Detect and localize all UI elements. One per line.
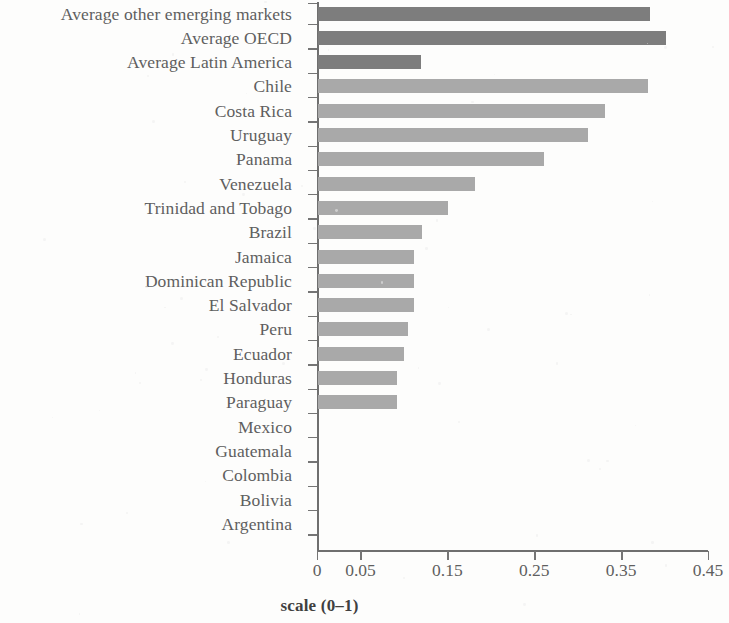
y-axis-tick <box>308 243 317 244</box>
speckle <box>180 297 183 300</box>
bar <box>318 128 588 142</box>
x-axis-tick-label: 0.05 <box>345 562 376 580</box>
category-label: Average OECD <box>181 30 292 48</box>
bar <box>318 274 414 288</box>
category-label: Honduras <box>223 370 292 388</box>
y-axis-tick <box>308 194 317 195</box>
y-axis-tick <box>308 413 317 414</box>
speckle <box>152 120 155 123</box>
speckle <box>205 481 206 482</box>
category-label: Argentina <box>221 516 292 534</box>
x-axis-tick-label: 0 <box>313 562 322 580</box>
category-label: Venezuela <box>219 176 292 194</box>
category-label: Peru <box>260 321 292 339</box>
y-axis-tick <box>308 510 317 511</box>
y-axis-tick <box>308 389 317 390</box>
bar <box>318 201 448 215</box>
x-axis-line <box>317 550 708 552</box>
y-axis-tick <box>308 364 317 365</box>
x-axis-title: scale (0–1) <box>0 596 729 616</box>
x-axis-tick <box>534 551 535 560</box>
bar <box>318 79 648 93</box>
y-axis-tick <box>308 534 317 535</box>
speckle <box>227 541 230 544</box>
speckle <box>665 564 667 566</box>
speckle <box>418 367 420 369</box>
x-axis-tick-label: 0.15 <box>432 562 463 580</box>
speckle <box>403 577 405 579</box>
category-label: Average Latin America <box>127 54 292 72</box>
speckle <box>205 368 208 371</box>
bar <box>318 177 475 191</box>
x-axis-tick <box>708 551 709 560</box>
category-label: Paraguay <box>226 394 292 412</box>
speckle <box>556 362 558 364</box>
bar <box>318 104 605 118</box>
bar <box>318 250 414 264</box>
speckle <box>313 227 316 230</box>
speckle <box>536 534 539 537</box>
y-axis-tick <box>308 486 317 487</box>
bar <box>318 225 422 239</box>
x-axis-tick-label: 0.45 <box>693 562 724 580</box>
speckle <box>381 281 383 283</box>
speckle <box>200 379 202 381</box>
speckle <box>278 185 280 187</box>
y-axis-tick <box>308 97 317 98</box>
y-axis-tick <box>308 218 317 219</box>
speckle <box>565 312 568 315</box>
speckle <box>264 1 267 4</box>
category-label: Dominican Republic <box>145 273 292 291</box>
bar <box>318 298 414 312</box>
y-axis-tick <box>308 340 317 341</box>
y-axis-tick <box>308 3 317 4</box>
x-axis-tick <box>447 551 448 560</box>
x-axis-tick-label: 0.35 <box>606 562 637 580</box>
speckle <box>99 410 100 411</box>
speckle <box>301 185 303 187</box>
speckle <box>425 247 428 250</box>
bar <box>318 7 650 21</box>
speckle <box>126 512 128 514</box>
y-axis-tick <box>308 316 317 317</box>
category-label: Average other emerging markets <box>61 6 292 24</box>
category-label: Guatemala <box>215 443 292 461</box>
category-label: Uruguay <box>230 127 292 145</box>
category-label: El Salvador <box>209 297 292 315</box>
speckle <box>458 421 460 423</box>
bar-chart: Average other emerging marketsAverage OE… <box>0 0 729 623</box>
speckle <box>471 101 473 103</box>
y-axis-tick <box>308 121 317 122</box>
category-label: Ecuador <box>233 346 292 364</box>
y-axis-tick <box>308 267 317 268</box>
x-axis-tick-label: 0.25 <box>519 562 550 580</box>
speckle <box>242 193 245 196</box>
category-label: Trinidad and Tobago <box>145 200 292 218</box>
speckle <box>587 459 590 462</box>
speckle <box>80 523 83 526</box>
y-axis-tick <box>308 291 317 292</box>
bar <box>318 371 397 385</box>
speckle <box>135 372 137 374</box>
speckle <box>599 468 601 470</box>
speckle <box>106 17 109 20</box>
bar <box>318 31 666 45</box>
speckle <box>436 219 439 222</box>
speckle <box>145 286 147 288</box>
speckle <box>139 382 141 384</box>
y-axis-tick <box>308 48 317 49</box>
speckle <box>651 541 654 544</box>
speckle <box>171 342 174 345</box>
speckle <box>147 75 150 78</box>
x-axis-tick <box>360 551 361 560</box>
bar <box>318 152 544 166</box>
y-axis-tick <box>308 437 317 438</box>
category-label: Jamaica <box>235 249 292 267</box>
speckle <box>43 238 46 241</box>
speckle <box>164 307 166 309</box>
y-axis-tick <box>308 461 317 462</box>
x-axis-tick <box>621 551 622 560</box>
category-label: Chile <box>254 78 292 96</box>
speckle <box>664 46 667 49</box>
category-label: Bolivia <box>240 492 292 510</box>
